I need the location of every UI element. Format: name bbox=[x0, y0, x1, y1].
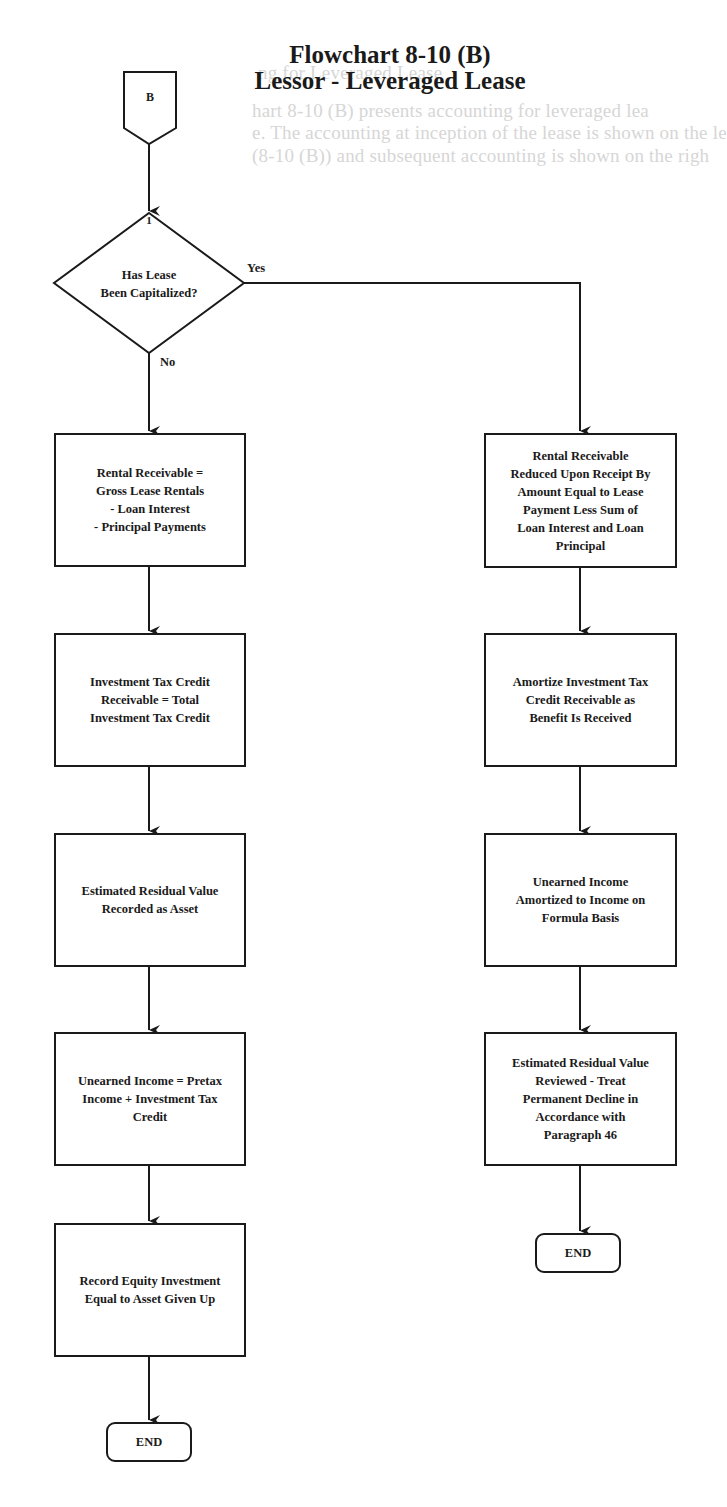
offpage-connector-shape bbox=[124, 72, 176, 144]
right-step-unearned-income-amortized: Unearned Income Amortized to Income on F… bbox=[484, 833, 677, 967]
left-step-unearned-income: Unearned Income = Pretax Income + Invest… bbox=[54, 1032, 246, 1166]
left-step-rental-receivable: Rental Receivable = Gross Lease Rentals … bbox=[54, 433, 246, 567]
left-step-investment-tax-credit: Investment Tax Credit Receivable = Total… bbox=[54, 633, 246, 767]
right-step-amortize-itc: Amortize Investment Tax Credit Receivabl… bbox=[484, 633, 677, 767]
right-step-rental-receivable-reduced: Rental Receivable Reduced Upon Receipt B… bbox=[484, 433, 677, 568]
right-end-terminator: END bbox=[535, 1233, 621, 1273]
decision-yes-label: Yes bbox=[247, 261, 265, 276]
offpage-connector-label: B bbox=[124, 90, 176, 105]
right-step-residual-value-reviewed: Estimated Residual Value Reviewed - Trea… bbox=[484, 1032, 677, 1166]
decision-question: Has Lease Been Capitalized? bbox=[74, 266, 224, 302]
decision-no-label: No bbox=[160, 355, 175, 370]
left-end-terminator: END bbox=[106, 1422, 192, 1462]
left-step-equity-investment: Record Equity Investment Equal to Asset … bbox=[54, 1223, 246, 1357]
left-step-residual-value: Estimated Residual Value Recorded as Ass… bbox=[54, 833, 246, 967]
decision-number: 1 bbox=[144, 214, 154, 226]
